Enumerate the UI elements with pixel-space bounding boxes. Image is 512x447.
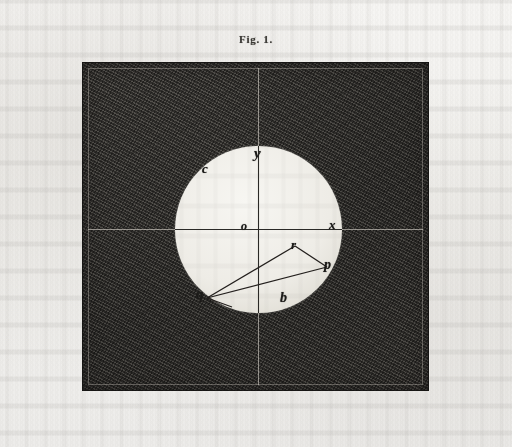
point-label-q: q — [196, 287, 204, 302]
figure-plate: y c o x r p q b — [82, 62, 429, 391]
point-label-r: r — [291, 238, 296, 251]
point-label-b: b — [280, 291, 287, 305]
figure-caption: Fig. 1. — [0, 33, 512, 45]
point-label-x: x — [329, 218, 336, 231]
point-label-y: y — [254, 146, 261, 161]
point-label-o: o — [241, 220, 247, 232]
point-label-c: c — [202, 162, 208, 175]
point-label-p: p — [324, 258, 331, 272]
